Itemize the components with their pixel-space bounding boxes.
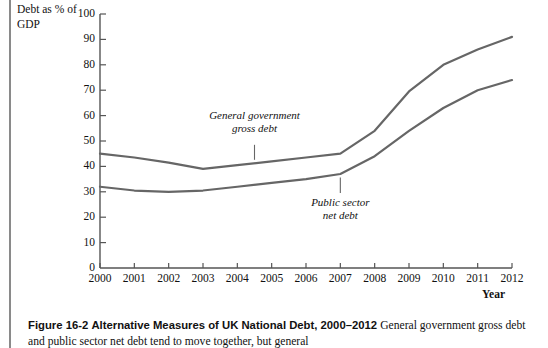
chart-figure: Debt as % of GDP 0102030405060708090100 … xyxy=(0,0,548,300)
figure-caption: Figure 16-2 Alternative Measures of UK N… xyxy=(28,318,528,348)
series-line-gross-debt xyxy=(100,37,512,169)
chart-svg xyxy=(92,8,520,290)
y-tick-label: 100 xyxy=(69,7,95,19)
x-tick-label: 2005 xyxy=(255,272,289,284)
x-tick-label: 2010 xyxy=(426,272,460,284)
x-axis-title: Year xyxy=(482,288,505,300)
x-tick-label: 2011 xyxy=(461,272,495,284)
y-tick-label: 60 xyxy=(69,109,95,121)
x-tick-label: 2001 xyxy=(117,272,151,284)
figure-page: Debt as % of GDP 0102030405060708090100 … xyxy=(0,0,548,348)
y-tick-label: 70 xyxy=(69,83,95,95)
y-tick-label: 30 xyxy=(69,185,95,197)
x-tick-label: 2000 xyxy=(83,272,117,284)
y-tick-label: 10 xyxy=(69,236,95,248)
x-tick-label: 2008 xyxy=(358,272,392,284)
y-tick-label: 40 xyxy=(69,159,95,171)
x-tick-label: 2012 xyxy=(495,272,529,284)
x-tick-label: 2009 xyxy=(392,272,426,284)
y-tick-label: 80 xyxy=(69,58,95,70)
annotation-net-debt: Public sector net debt xyxy=(288,196,392,222)
x-tick-label: 2007 xyxy=(323,272,357,284)
x-tick-label: 2002 xyxy=(152,272,186,284)
y-tick-label: 50 xyxy=(69,134,95,146)
caption-title: Alternative Measures of UK National Debt… xyxy=(91,319,377,331)
x-tick-label: 2006 xyxy=(289,272,323,284)
y-tick-label: 20 xyxy=(69,210,95,222)
chart-ticks xyxy=(100,14,512,268)
y-tick-label: 90 xyxy=(69,32,95,44)
caption-label: Figure 16-2 xyxy=(28,319,88,331)
chart-plot-area xyxy=(92,8,520,290)
chart-axes xyxy=(100,14,512,268)
x-tick-label: 2004 xyxy=(220,272,254,284)
x-tick-label: 2003 xyxy=(186,272,220,284)
series-line-net-debt xyxy=(100,80,512,192)
annotation-gross-debt: General government gross debt xyxy=(195,109,315,135)
